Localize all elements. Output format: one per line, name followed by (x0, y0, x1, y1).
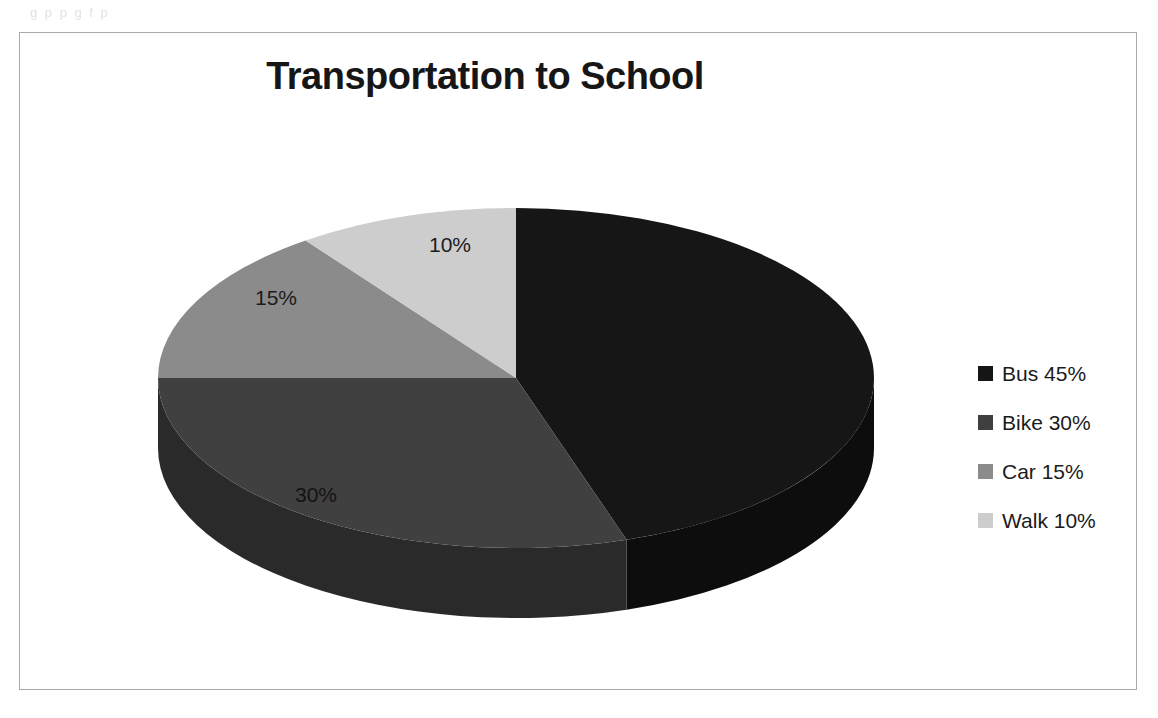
slice-label-walk: 10% (429, 233, 471, 257)
legend-item-label: Bike 30% (1002, 411, 1091, 435)
legend: Bus 45% Bike 30% Car 15% Walk 10% (978, 349, 1148, 545)
slice-label-bike: 30% (295, 483, 337, 507)
legend-swatch-icon (978, 513, 993, 528)
legend-item-bike[interactable]: Bike 30% (978, 398, 1148, 447)
legend-item-label: Bus 45% (1002, 362, 1086, 386)
legend-swatch-icon (978, 366, 993, 381)
legend-item-label: Walk 10% (1002, 509, 1096, 533)
legend-swatch-icon (978, 415, 993, 430)
legend-swatch-icon (978, 464, 993, 479)
pie-chart-svg (120, 153, 920, 673)
legend-item-bus[interactable]: Bus 45% (978, 349, 1148, 398)
legend-item-car[interactable]: Car 15% (978, 447, 1148, 496)
legend-item-label: Car 15% (1002, 460, 1084, 484)
scan-artifact-text: g p p g f p (0, 0, 1158, 26)
slice-label-car: 15% (255, 286, 297, 310)
chart-title: Transportation to School (20, 55, 950, 98)
pie-chart-area: 30% 15% 10% (120, 153, 920, 673)
chart-frame: Transportation to School 30% 15% 10% Bus… (19, 32, 1137, 690)
legend-item-walk[interactable]: Walk 10% (978, 496, 1148, 545)
